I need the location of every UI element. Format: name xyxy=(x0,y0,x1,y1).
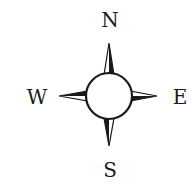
north-point-icon xyxy=(104,43,114,75)
east-label: E xyxy=(173,87,188,107)
west-point-icon xyxy=(59,91,88,101)
north-label: N xyxy=(101,10,119,30)
south-point-icon xyxy=(104,118,114,146)
west-label: W xyxy=(27,87,48,107)
compass-rose: N S W E xyxy=(0,0,192,185)
center-circle-icon xyxy=(86,73,132,119)
east-point-icon xyxy=(130,91,157,101)
south-label: S xyxy=(103,160,117,180)
